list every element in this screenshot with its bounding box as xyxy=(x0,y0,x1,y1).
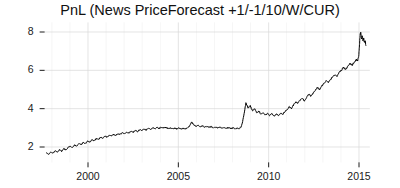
x-tick-label: 2015 xyxy=(339,170,379,182)
y-tick-label: 4 xyxy=(18,102,34,114)
y-tick-label: 6 xyxy=(18,63,34,75)
pnl-line xyxy=(46,32,365,154)
x-tick-label: 2005 xyxy=(158,170,198,182)
chart-figure: PnL (News PriceForecast +1/-1/10/W/CUR) … xyxy=(0,0,400,188)
x-tick-label: 2000 xyxy=(68,170,108,182)
y-tick-label: 2 xyxy=(18,140,34,152)
plot-area xyxy=(0,0,400,188)
x-tick-label: 2010 xyxy=(249,170,289,182)
gridlines xyxy=(45,22,370,162)
y-tick-label: 8 xyxy=(18,25,34,37)
